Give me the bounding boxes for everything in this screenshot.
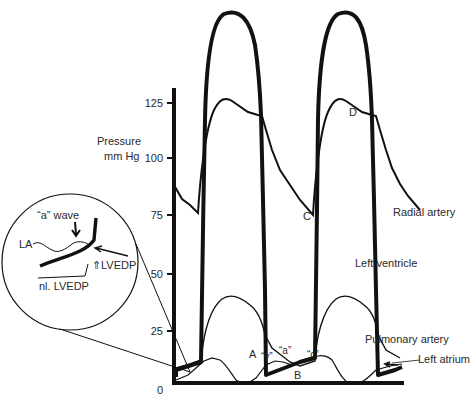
inset-connector-upper bbox=[136, 244, 190, 372]
radial-artery-label: Radial artery bbox=[393, 207, 455, 218]
point-label-C: C bbox=[303, 211, 311, 222]
left-ventricle-curve bbox=[176, 12, 402, 377]
tick-label-125: 125 bbox=[133, 98, 163, 109]
left-atrium-curve bbox=[176, 356, 402, 385]
inset-up-lvedp-label: ⇑LVEDP bbox=[92, 260, 136, 271]
inset-connector-lower bbox=[60, 329, 190, 372]
y-axis-label-line1: Pressure bbox=[97, 136, 141, 147]
wave-label-v: “v” bbox=[261, 352, 273, 362]
tick-label-100: 100 bbox=[133, 153, 163, 164]
tick-label-25: 25 bbox=[133, 326, 163, 337]
tick-label-0: 0 bbox=[133, 385, 163, 396]
point-label-B: B bbox=[294, 370, 301, 381]
inset-nl-lvedp-label: nl. LVEDP bbox=[39, 281, 89, 292]
left-atrium-leader-line bbox=[392, 360, 420, 363]
tick-label-75: 75 bbox=[133, 210, 163, 221]
inset-a-wave-label: “a” wave bbox=[37, 210, 79, 221]
tick-label-50: 50 bbox=[133, 269, 163, 280]
left-ventricle-label: Left ventricle bbox=[355, 258, 417, 269]
radial-artery-curve bbox=[174, 99, 420, 215]
pressure-waveform-diagram bbox=[0, 0, 476, 406]
wave-label-a: “a” bbox=[279, 346, 291, 356]
point-label-D: D bbox=[349, 107, 357, 118]
point-label-A: A bbox=[249, 349, 256, 360]
wave-label-c: “c” bbox=[307, 350, 319, 360]
left-atrium-label: Left atrium bbox=[418, 354, 470, 365]
pulmonary-artery-label: Pulmonary artery bbox=[365, 334, 449, 345]
inset-la-label: LA bbox=[19, 239, 32, 250]
